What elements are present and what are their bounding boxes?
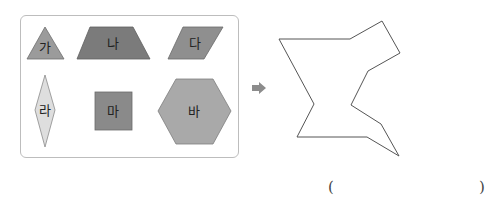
piece-ra: 라 xyxy=(35,75,55,147)
piece-na-label: 나 xyxy=(107,36,119,51)
piece-ma: 마 xyxy=(95,92,132,130)
piece-ra-label: 라 xyxy=(39,103,51,118)
target-figure-outline xyxy=(279,21,400,156)
right-arrow-icon xyxy=(252,82,266,94)
piece-ga-label: 가 xyxy=(39,40,51,55)
piece-ba: 바 xyxy=(158,79,231,144)
answer-blank[interactable] xyxy=(345,178,475,198)
answer-close-paren: ) xyxy=(479,178,485,196)
piece-da: 다 xyxy=(168,27,223,59)
piece-na: 나 xyxy=(77,27,150,59)
piece-da-label: 다 xyxy=(189,36,201,51)
piece-ba-label: 바 xyxy=(188,104,200,119)
answer-open-paren: ( xyxy=(328,178,334,196)
piece-ga: 가 xyxy=(27,27,64,59)
piece-ma-label: 마 xyxy=(107,104,119,119)
